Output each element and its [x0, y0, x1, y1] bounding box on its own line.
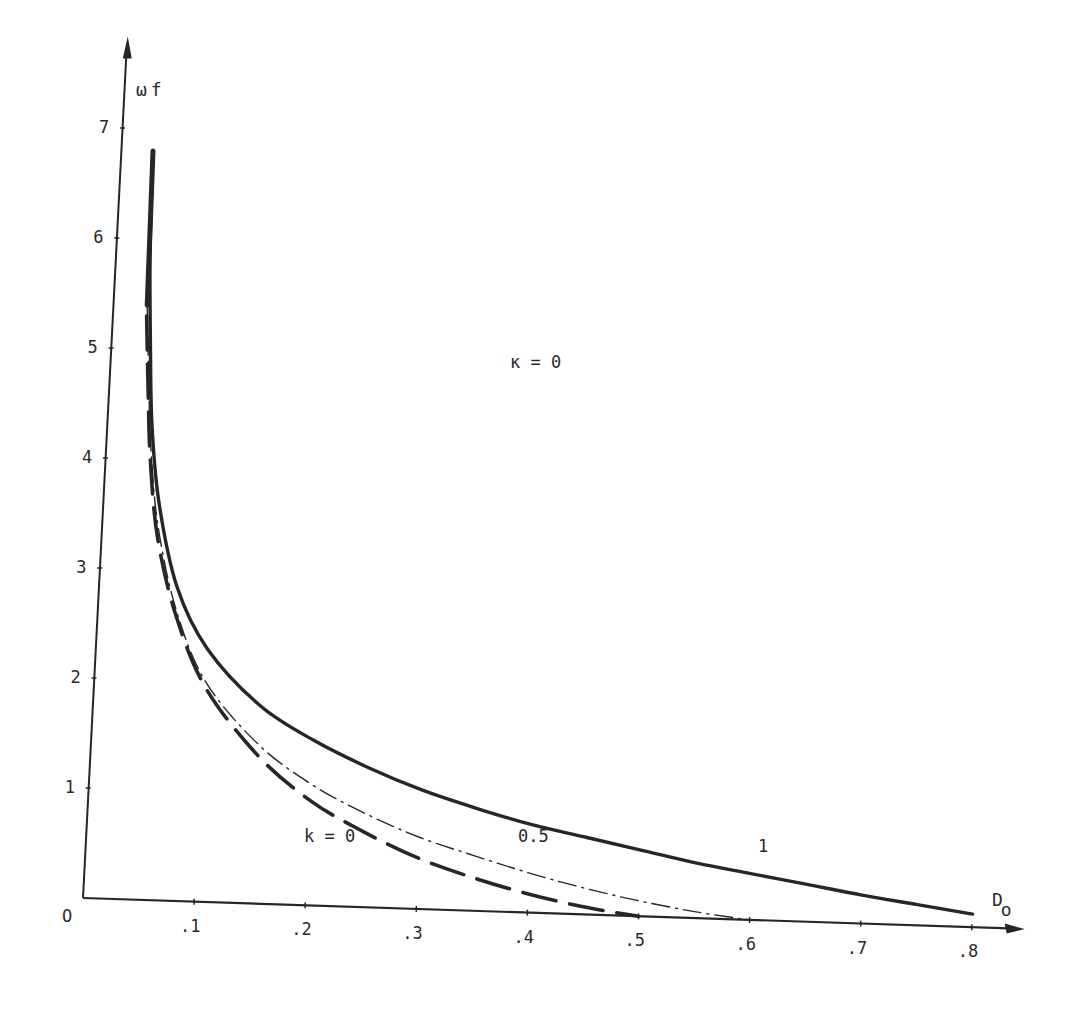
chart-container: O ωf Do κ = 0 k = 0 0.5 1 .1.2.3.4.5.6.7…	[0, 0, 1088, 1018]
y-tick-label: 5	[88, 337, 98, 357]
series-label-k0: k = 0	[304, 826, 355, 846]
curve-dash-dot	[147, 305, 749, 920]
y-tick-label: 4	[82, 447, 92, 467]
x-tick-label: .1	[180, 916, 200, 936]
series-label-k05: 0.5	[518, 826, 549, 846]
kappa-annotation: κ = 0	[510, 352, 561, 372]
x-tick-label: .4	[513, 927, 533, 947]
x-tick-label: .2	[291, 919, 311, 939]
x-axis-arrow-icon	[1005, 924, 1025, 934]
y-axis-arrow-icon	[123, 37, 132, 59]
curves	[147, 151, 973, 920]
x-tick-label: .3	[402, 923, 422, 943]
y-tick-label: 3	[76, 557, 86, 577]
x-axis-label: Do	[992, 889, 1012, 920]
labels: O ωf Do κ = 0 k = 0 0.5 1 .1.2.3.4.5.6.7…	[62, 79, 1012, 961]
curve-convergence	[147, 151, 153, 305]
x-tick-label: .8	[958, 941, 978, 961]
curve-solid	[150, 151, 973, 914]
x-axis-line	[83, 898, 1017, 929]
y-tick-label: 1	[65, 777, 75, 797]
x-tick-label: .6	[736, 934, 756, 954]
series-label-k1: 1	[758, 836, 768, 856]
y-axis-label: ωf	[136, 79, 162, 100]
origin-label: O	[62, 906, 72, 926]
y-tick-label: 2	[70, 667, 80, 687]
line-chart: O ωf Do κ = 0 k = 0 0.5 1 .1.2.3.4.5.6.7…	[0, 0, 1088, 1018]
x-tick-label: .7	[847, 938, 867, 958]
y-axis-line	[83, 47, 127, 899]
y-tick-label: 6	[93, 227, 103, 247]
x-tick-label: .5	[625, 930, 645, 950]
y-tick-label: 7	[99, 117, 109, 137]
axes	[83, 37, 1025, 934]
